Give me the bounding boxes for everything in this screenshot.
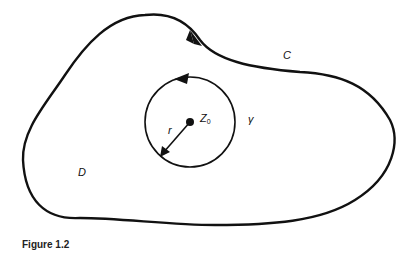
circle-gamma-arrow-icon — [174, 73, 189, 84]
label-c: C — [283, 49, 291, 61]
label-z: Z — [200, 112, 207, 124]
figure-caption: Figure 1.2 — [22, 239, 69, 250]
label-z-subscript: 0 — [207, 118, 211, 125]
label-r: r — [168, 124, 172, 136]
label-gamma: γ — [248, 113, 254, 125]
label-z0: Z0 — [200, 112, 211, 125]
diagram-canvas — [0, 0, 416, 258]
label-d: D — [78, 166, 86, 178]
